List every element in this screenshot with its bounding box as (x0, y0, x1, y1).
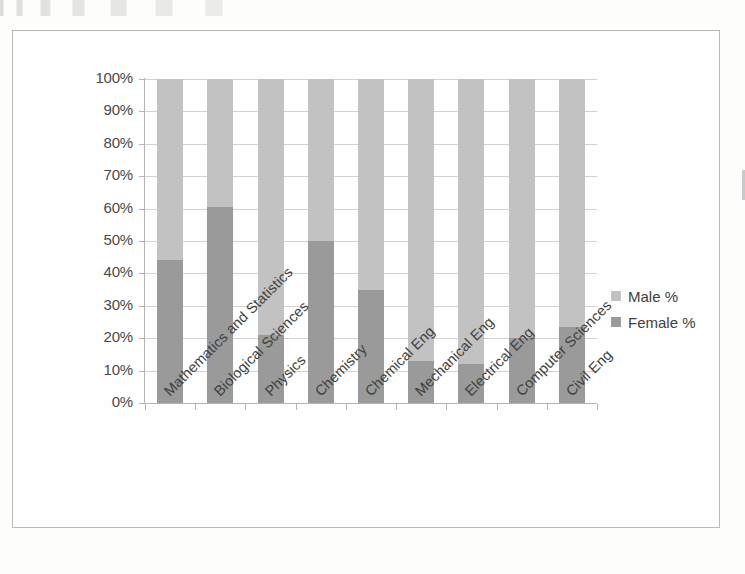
y-axis-label: 10% (104, 361, 133, 378)
chart-frame: 100%90%80%70%60%50%40%30%20%10%0% Mathem… (12, 30, 720, 528)
bar-segment-female (509, 338, 535, 403)
bar-segment-male (157, 79, 183, 260)
y-axis-tick-labels: 100%90%80%70%60%50%40%30%20%10%0% (69, 31, 133, 527)
y-axis-label: 20% (104, 328, 133, 345)
bar-segment-male (559, 79, 585, 327)
x-tick-mark (195, 404, 196, 410)
y-axis-label: 70% (104, 166, 133, 183)
x-tick-mark (396, 404, 397, 410)
plot-area (145, 79, 597, 403)
bar-group (458, 79, 484, 403)
bar-segment-female (308, 241, 334, 403)
bar-segment-female (358, 290, 384, 403)
bar-segment-female (258, 335, 284, 403)
bar-segment-male (509, 79, 535, 338)
x-tick-mark (497, 404, 498, 410)
y-axis-label: 30% (104, 296, 133, 313)
x-axis-line (144, 403, 597, 404)
legend-swatch-icon (611, 317, 621, 327)
x-tick-mark (145, 404, 146, 410)
bar-segment-male (207, 79, 233, 207)
y-axis-label: 50% (104, 231, 133, 248)
bar-group (157, 79, 183, 403)
legend-swatch-icon (611, 291, 621, 301)
bar-segment-male (358, 79, 384, 290)
bar-group (258, 79, 284, 403)
x-tick-mark (245, 404, 246, 410)
bar-segment-female (157, 260, 183, 403)
y-axis-label: 100% (95, 69, 133, 86)
bar-group (408, 79, 434, 403)
y-axis-label: 40% (104, 263, 133, 280)
bar-segment-male (408, 79, 434, 361)
bar-segment-female (559, 327, 585, 403)
y-axis-label: 0% (112, 393, 133, 410)
bar-segment-female (408, 361, 434, 403)
chart-legend: Male %Female % (611, 283, 711, 335)
bar-segment-female (207, 207, 233, 403)
scan-artifact-top (0, 0, 745, 16)
x-tick-mark (547, 404, 548, 410)
bar-group (358, 79, 384, 403)
bar-group (308, 79, 334, 403)
x-tick-mark (597, 404, 598, 410)
bar-segment-female (458, 364, 484, 403)
x-tick-mark (446, 404, 447, 410)
legend-item: Female % (611, 309, 711, 335)
x-tick-mark (296, 404, 297, 410)
bar-group (207, 79, 233, 403)
y-axis-label: 80% (104, 134, 133, 151)
bar-segment-male (258, 79, 284, 335)
legend-item: Male % (611, 283, 711, 309)
legend-label: Female % (628, 314, 696, 331)
x-tick-mark (346, 404, 347, 410)
legend-label: Male % (628, 288, 678, 305)
y-axis-label: 60% (104, 199, 133, 216)
y-axis-label: 90% (104, 101, 133, 118)
bar-group (509, 79, 535, 403)
bar-segment-male (458, 79, 484, 364)
bar-group (559, 79, 585, 403)
bar-segment-male (308, 79, 334, 241)
